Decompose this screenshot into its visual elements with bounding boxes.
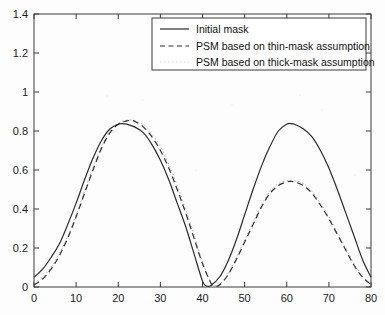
chart-legend: Initial mask PSM based on thin-mask assu… <box>152 18 375 70</box>
x-tick-label: 50 <box>239 292 251 304</box>
x-tick-label: 70 <box>323 292 335 304</box>
legend-label-initial-mask: Initial mask <box>196 23 249 35</box>
x-tick-label: 40 <box>196 292 208 304</box>
y-tick-label: 1 <box>22 86 28 98</box>
x-tick-label: 80 <box>365 292 377 304</box>
y-tick-label: 0.8 <box>13 125 28 137</box>
y-tick-label: 0.4 <box>13 203 28 215</box>
y-tick-label: 1.2 <box>13 47 28 59</box>
y-tick-label: 0.2 <box>13 242 28 254</box>
legend-label-thin-mask: PSM based on thin-mask assumption <box>196 40 370 52</box>
legend-label-thick-mask: PSM based on thick-mask assumption <box>196 56 375 68</box>
line-chart: 01020304050607080 00.20.40.60.811.21.4 I… <box>0 0 385 315</box>
x-tick-label: 30 <box>154 292 166 304</box>
y-tick-label: 1.4 <box>13 8 28 20</box>
x-tick-label: 60 <box>281 292 293 304</box>
y-tick-label: 0 <box>22 281 28 293</box>
chart-figure: 01020304050607080 00.20.40.60.811.21.4 I… <box>0 0 385 315</box>
x-tick-label: 10 <box>70 292 82 304</box>
y-tick-label: 0.6 <box>13 164 28 176</box>
x-tick-label: 0 <box>31 292 37 304</box>
x-tick-label: 20 <box>112 292 124 304</box>
